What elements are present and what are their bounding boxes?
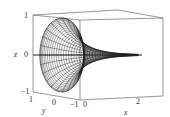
x-axis-label: x xyxy=(123,108,128,117)
y-tick-1: 1 xyxy=(29,95,33,104)
plot-canvas: z 1 0 −1 1 0 −1 y 0 2 x xyxy=(0,0,170,117)
x-tick-2: 2 xyxy=(136,97,140,106)
horn-wireframe xyxy=(33,18,142,92)
y-tick-0: 0 xyxy=(52,98,56,107)
horn-surface-plot: z 1 0 −1 1 0 −1 y 0 2 x xyxy=(0,0,170,117)
z-tick-1: 1 xyxy=(24,11,28,20)
y-axis-label: y xyxy=(41,106,46,115)
x-tick-0: 0 xyxy=(83,100,87,109)
y-tick-neg1: −1 xyxy=(70,100,79,109)
z-axis-label: z xyxy=(13,50,18,59)
z-tick-0: 0 xyxy=(24,50,28,59)
